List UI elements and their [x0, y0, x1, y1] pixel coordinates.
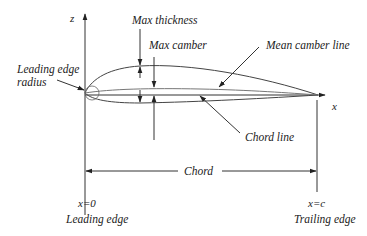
chord-dimension: Chord [86, 165, 316, 177]
leading-edge-label: Leading edge [65, 213, 128, 226]
leading-edge-radius-label-1: Leading edge [16, 63, 79, 76]
x-axis-label: x [331, 100, 337, 112]
chord-line-label: Chord line [245, 131, 294, 143]
max-camber-label: Max camber [148, 39, 207, 51]
max-thickness-label: Max thickness [131, 14, 198, 26]
max-camber-indicator: Max camber [148, 39, 207, 140]
mean-camber-line [85, 89, 318, 95]
x-axis: x [85, 95, 337, 112]
leading-edge-radius-callout: Leading edge radius [16, 63, 84, 90]
z-axis-label: z [69, 12, 75, 24]
leading-edge-radius-label-2: radius [17, 76, 47, 88]
mean-camber-line-callout: Mean camber line [219, 39, 350, 87]
trailing-edge-label: Trailing edge [294, 213, 356, 226]
airfoil-upper-surface [85, 66, 318, 95]
chord-line-callout: Chord line [200, 96, 294, 143]
airfoil-diagram: z x Max thickness Max camber Mean camber… [0, 0, 367, 236]
z-axis: z [69, 12, 85, 215]
mean-camber-line-label: Mean camber line [265, 39, 350, 51]
xc-label: x=c [307, 197, 325, 209]
x0-label: x=0 [77, 197, 96, 209]
chord-label: Chord [184, 165, 213, 177]
